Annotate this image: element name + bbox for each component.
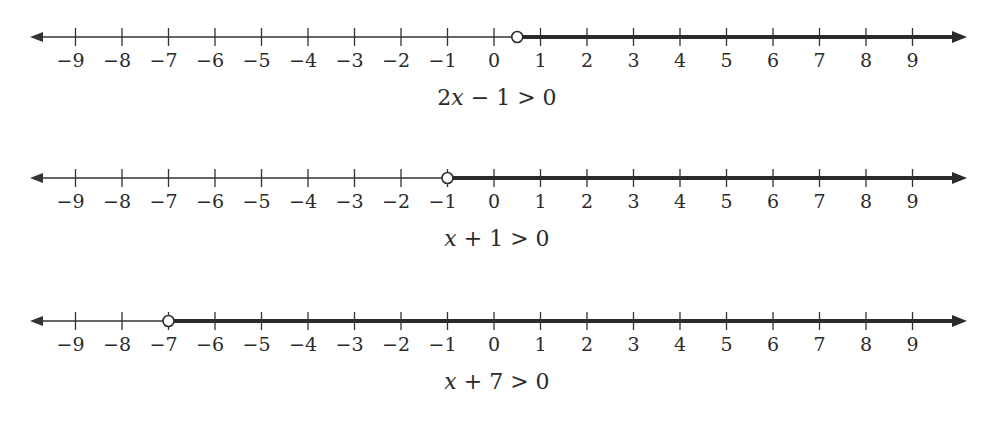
tick-label: 4: [674, 49, 686, 71]
tick-label: −4: [289, 190, 317, 212]
tick-label: −9: [56, 49, 84, 71]
tick-label: 4: [674, 190, 686, 212]
number-line-diagram: −9−8−7−6−5−4−3−2−101234567892x − 1 > 0−9…: [0, 0, 993, 422]
open-circle-endpoint: [512, 32, 523, 43]
left-arrow-icon: [30, 316, 43, 326]
tick-label: 3: [627, 190, 639, 212]
tick-label: −1: [428, 190, 456, 212]
left-arrow-icon: [30, 32, 43, 42]
tick-label: 8: [860, 190, 872, 212]
tick-label: 2: [581, 190, 593, 212]
tick-label: 9: [906, 190, 918, 212]
tick-label: −1: [428, 49, 456, 71]
tick-label: −2: [382, 333, 410, 355]
tick-label: −5: [242, 49, 270, 71]
tick-label: −6: [196, 333, 224, 355]
tick-label: 9: [906, 49, 918, 71]
tick-label: 2: [581, 333, 593, 355]
tick-label: 1: [534, 49, 546, 71]
tick-label: 8: [860, 49, 872, 71]
tick-label: 7: [813, 190, 825, 212]
tick-label: −9: [56, 333, 84, 355]
open-circle-endpoint: [163, 316, 174, 327]
open-circle-endpoint: [442, 173, 453, 184]
tick-label: 1: [534, 190, 546, 212]
tick-label: −6: [196, 49, 224, 71]
tick-label: −8: [103, 333, 131, 355]
tick-label: −9: [56, 190, 84, 212]
tick-label: 6: [767, 190, 779, 212]
right-arrow-icon: [952, 172, 967, 184]
tick-label: 3: [627, 49, 639, 71]
tick-label: 1: [534, 333, 546, 355]
tick-label: 5: [720, 333, 732, 355]
tick-label: −7: [149, 333, 177, 355]
left-arrow-icon: [30, 173, 43, 183]
tick-label: 6: [767, 49, 779, 71]
tick-label: −5: [242, 190, 270, 212]
tick-label: −3: [335, 49, 363, 71]
tick-label: −8: [103, 190, 131, 212]
tick-label: 6: [767, 333, 779, 355]
tick-label: 3: [627, 333, 639, 355]
tick-label: −2: [382, 49, 410, 71]
number-line-2: −9−8−7−6−5−4−3−2−10123456789x + 1 > 0: [30, 169, 967, 251]
tick-label: −7: [149, 49, 177, 71]
tick-label: 8: [860, 333, 872, 355]
tick-label: −4: [289, 333, 317, 355]
right-arrow-icon: [952, 31, 967, 43]
tick-label: 5: [720, 190, 732, 212]
right-arrow-icon: [952, 315, 967, 327]
tick-label: −4: [289, 49, 317, 71]
tick-label: −5: [242, 333, 270, 355]
tick-label: −3: [335, 190, 363, 212]
tick-label: 7: [813, 333, 825, 355]
tick-label: −3: [335, 333, 363, 355]
tick-label: −8: [103, 49, 131, 71]
tick-label: 0: [488, 190, 500, 212]
tick-label: 5: [720, 49, 732, 71]
tick-label: −2: [382, 190, 410, 212]
number-line-1: −9−8−7−6−5−4−3−2−101234567892x − 1 > 0: [30, 28, 967, 110]
tick-label: 0: [488, 49, 500, 71]
tick-label: −6: [196, 190, 224, 212]
tick-label: 0: [488, 333, 500, 355]
inequality-caption: x + 7 > 0: [444, 369, 549, 394]
inequality-caption: 2x − 1 > 0: [437, 85, 556, 110]
tick-label: 4: [674, 333, 686, 355]
tick-label: 2: [581, 49, 593, 71]
number-line-3: −9−8−7−6−5−4−3−2−10123456789x + 7 > 0: [30, 312, 967, 394]
inequality-caption: x + 1 > 0: [444, 226, 549, 251]
tick-label: 9: [906, 333, 918, 355]
tick-label: 7: [813, 49, 825, 71]
tick-label: −1: [428, 333, 456, 355]
tick-label: −7: [149, 190, 177, 212]
